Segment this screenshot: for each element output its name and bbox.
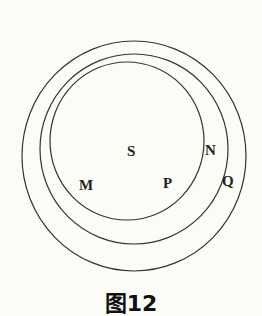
label-p: P xyxy=(163,175,172,191)
figure-caption: 图12 xyxy=(0,292,262,316)
label-m: M xyxy=(79,177,93,193)
label-q: Q xyxy=(222,173,234,189)
circle-p-inner xyxy=(50,62,204,220)
label-s: S xyxy=(127,143,135,159)
label-n: N xyxy=(205,142,216,158)
